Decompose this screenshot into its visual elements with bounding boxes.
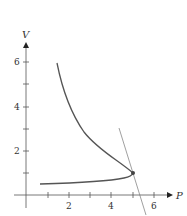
y-axis-arrow-icon [23, 42, 29, 48]
y-tick-label-2: 2 [14, 146, 20, 156]
x-tick-label-6: 6 [151, 201, 157, 211]
chart: P V 2 4 6 2 4 6 [0, 0, 187, 216]
y-tick-label-4: 4 [14, 102, 20, 112]
lower-branch-curve [40, 173, 133, 184]
y-axis-label: V [22, 29, 31, 40]
x-tick-label-2: 2 [66, 201, 72, 211]
upper-branch-curve [57, 63, 133, 173]
x-tick-label-4: 4 [108, 201, 114, 211]
x-axis-arrow-icon [167, 192, 173, 198]
x-axis-label: P [175, 190, 183, 201]
y-tick-label-6: 6 [14, 57, 20, 67]
tangency-point [131, 171, 135, 175]
